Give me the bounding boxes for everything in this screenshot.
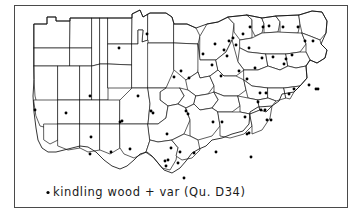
distribution-dot (212, 121, 215, 124)
distribution-dot (179, 151, 182, 154)
distribution-dot (268, 25, 271, 28)
map-region (92, 18, 100, 66)
distribution-dot (220, 75, 223, 78)
distribution-dot (228, 40, 231, 43)
distribution-dot (170, 147, 173, 150)
distribution-dot (90, 136, 93, 139)
distribution-dot (165, 165, 168, 168)
map-region (44, 124, 58, 144)
map-region (34, 48, 70, 66)
caption-label: kindling wood + var (Qu. D34) (53, 185, 246, 199)
map-region (80, 100, 100, 124)
distribution-dot (265, 92, 268, 95)
map-region (58, 66, 80, 100)
distribution-dot (288, 93, 291, 96)
map-region (108, 18, 132, 44)
map-region (58, 100, 80, 124)
distribution-dot (173, 76, 176, 79)
distribution-dot (185, 110, 188, 113)
map-canvas: kindling wood + var (Qu. D34) (0, 0, 364, 224)
distribution-dot (272, 56, 275, 59)
distribution-dot (262, 26, 265, 29)
distribution-dot (250, 156, 253, 159)
distribution-dot (266, 119, 269, 122)
distribution-dot (65, 112, 68, 115)
distribution-dot (293, 88, 296, 91)
distribution-dot (317, 88, 320, 91)
distribution-dot (308, 84, 311, 87)
distribution-dot (226, 55, 229, 58)
distribution-dot (180, 70, 183, 73)
distribution-dot (285, 58, 288, 61)
distribution-dot (167, 159, 170, 162)
distribution-dot (259, 92, 262, 95)
map-region (100, 100, 120, 124)
distribution-dot (244, 116, 247, 119)
distribution-dot (215, 151, 218, 154)
distribution-dot (242, 33, 245, 36)
distribution-dot (183, 177, 186, 180)
map-region (92, 64, 100, 100)
distribution-dot (246, 78, 249, 81)
distribution-dot (177, 162, 180, 165)
distribution-dot (193, 152, 196, 155)
distribution-dot (223, 49, 226, 52)
map-region (58, 124, 80, 150)
map-region (70, 18, 92, 48)
distribution-dot (297, 26, 300, 29)
dialect-map-figure: kindling wood + var (Qu. D34) (0, 0, 364, 224)
distribution-dot (264, 109, 267, 112)
distribution-dot (164, 160, 167, 163)
distribution-dot (235, 44, 238, 47)
distribution-dot (137, 95, 140, 98)
distribution-dot (312, 40, 315, 43)
distribution-dot (291, 54, 294, 57)
distribution-dot (257, 101, 260, 104)
distribution-dot (270, 119, 273, 122)
distribution-dot (211, 64, 214, 67)
map-region (70, 48, 92, 66)
map-caption: kindling wood + var (Qu. D34) (46, 185, 245, 199)
distribution-dot (254, 67, 257, 70)
distribution-dot (304, 40, 307, 43)
legend-dot-icon (46, 191, 49, 194)
map-region (100, 64, 108, 100)
distribution-dot (89, 153, 92, 156)
distribution-dot (260, 109, 263, 112)
distribution-dot (166, 133, 169, 136)
distribution-dot (238, 70, 241, 73)
distribution-dot (146, 33, 149, 36)
map-region (100, 18, 108, 64)
distribution-dot (261, 57, 264, 60)
distribution-dot (187, 113, 190, 116)
distribution-dot (214, 43, 217, 46)
distribution-dot (89, 95, 92, 98)
distribution-dot (232, 37, 235, 40)
distribution-dot (283, 63, 286, 66)
distribution-dot (119, 121, 122, 124)
distribution-dot (248, 132, 251, 135)
distribution-dot (282, 26, 285, 29)
map-region (108, 64, 132, 88)
distribution-dot (118, 47, 121, 50)
distribution-dot (110, 151, 113, 154)
distribution-dot (249, 26, 252, 29)
distribution-dot (221, 121, 224, 124)
distribution-dot (34, 109, 37, 112)
distribution-dot (129, 148, 132, 151)
map-region (148, 13, 174, 43)
distribution-dot (248, 47, 251, 50)
distribution-dot (188, 77, 191, 80)
distribution-dot (202, 53, 205, 56)
distribution-dot (152, 112, 155, 115)
map-region (100, 124, 120, 154)
